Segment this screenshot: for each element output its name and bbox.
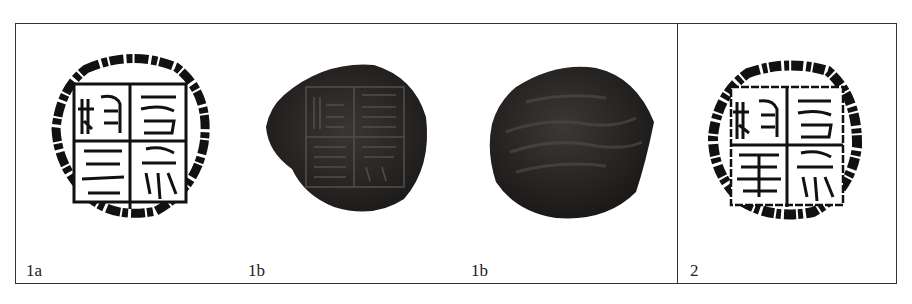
panel-label-1b-back: 1b: [471, 261, 488, 281]
panel-label-1a: 1a: [26, 261, 42, 281]
panel-label-2: 2: [690, 261, 699, 281]
panel-label-1b-front: 1b: [248, 261, 265, 281]
figure-frame: 1a: [15, 23, 897, 284]
clay-sealing-photo-front: [264, 57, 434, 219]
seal-rubbing-2: [703, 57, 868, 222]
clay-sealing-photo-back: [486, 62, 656, 224]
panel-group-1: 1a: [16, 24, 677, 283]
seal-rubbing-1a: [46, 49, 216, 219]
panel-group-2: 2: [677, 24, 897, 283]
